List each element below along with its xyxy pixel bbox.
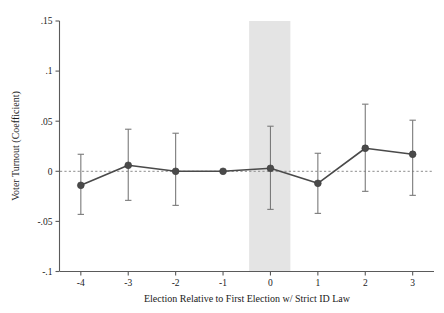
x-tick-label: -2	[172, 278, 180, 288]
y-axis-ticks: .15.1.050-.05-.1	[37, 16, 59, 277]
coefficient-point-marker	[125, 162, 132, 169]
coefficient-point-marker	[314, 180, 321, 187]
y-tick-label: -.1	[42, 267, 53, 277]
voter-turnout-event-study-chart: .15.1.050-.05-.1 -4-3-2-10123 Election R…	[0, 0, 444, 313]
coefficient-point-marker	[77, 182, 84, 189]
y-tick-label: .1	[45, 66, 52, 76]
y-tick-label: -.05	[37, 217, 52, 227]
treatment-period-band	[249, 21, 290, 272]
coefficient-point-marker	[362, 145, 369, 152]
coefficient-point-marker	[409, 151, 416, 158]
x-tick-label: 2	[363, 278, 368, 288]
x-tick-label: -4	[77, 278, 85, 288]
y-tick-label: 0	[48, 167, 53, 177]
x-tick-label: 3	[410, 278, 415, 288]
error-bars-group	[78, 104, 416, 214]
x-tick-label: -3	[124, 278, 132, 288]
x-tick-label: 1	[315, 278, 320, 288]
coefficient-point-marker	[267, 165, 274, 172]
coefficient-point-marker	[172, 168, 179, 175]
coefficient-point-marker	[220, 168, 227, 175]
x-tick-label: -1	[219, 278, 227, 288]
x-axis-title: Election Relative to First Election w/ S…	[144, 293, 351, 304]
x-axis-ticks: -4-3-2-10123	[77, 272, 415, 288]
y-tick-label: .05	[41, 117, 53, 127]
x-tick-label: 0	[268, 278, 273, 288]
y-axis-title: Voter Turnout (Coefficient)	[10, 91, 22, 201]
y-tick-label: .15	[41, 16, 53, 26]
chart-canvas: .15.1.050-.05-.1 -4-3-2-10123 Election R…	[0, 0, 444, 313]
